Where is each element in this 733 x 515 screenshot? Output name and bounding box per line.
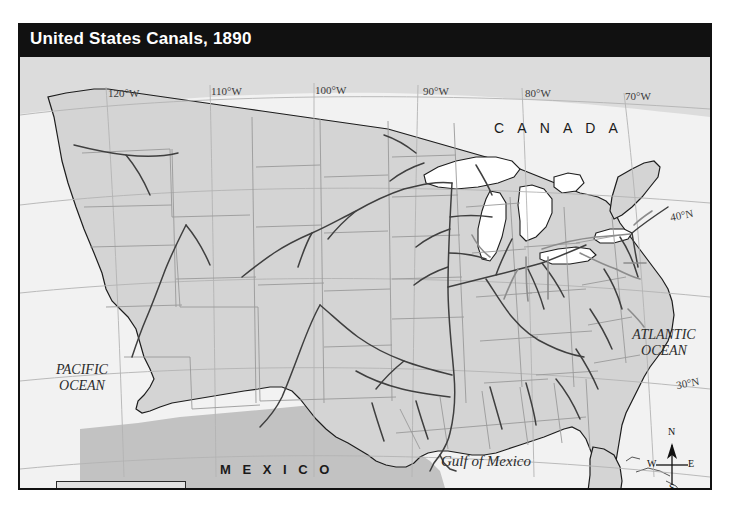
map-legend: Navigable rivers Canals	[56, 481, 186, 490]
ocean-label-atlantic: ATLANTIC OCEAN	[615, 327, 712, 358]
pacific-line-1: PACIFIC	[40, 362, 124, 378]
map-title-bar: United States Canals, 1890	[18, 23, 712, 55]
atlantic-line-2: OCEAN	[615, 343, 712, 359]
compass-west: W	[647, 458, 656, 469]
country-label-mexico: M E X I C O	[220, 462, 333, 477]
compass-rose: N E S W	[648, 435, 696, 490]
country-label-canada: C A N A D A	[494, 120, 623, 136]
pacific-line-2: OCEAN	[40, 378, 124, 394]
page-title: United States Canals, 1890	[30, 29, 252, 49]
lon-label-120w: 120°W	[108, 87, 139, 99]
water-label-gulf-of-mexico: Gulf of Mexico	[441, 453, 531, 470]
atlantic-line-1: ATLANTIC	[615, 327, 712, 343]
compass-south: S	[669, 482, 675, 490]
lon-label-100w: 100°W	[315, 84, 346, 96]
lon-label-90w: 90°W	[423, 85, 449, 97]
lon-label-70w: 70°W	[625, 90, 651, 102]
ocean-label-pacific: PACIFIC OCEAN	[40, 362, 124, 393]
map-figure: United States Canals, 1890	[18, 23, 712, 490]
map-canvas: 120°W 110°W 100°W 90°W 80°W 70°W 40°N 30…	[18, 55, 712, 490]
compass-east: E	[688, 458, 694, 469]
lon-label-110w: 110°W	[211, 85, 242, 97]
lon-label-80w: 80°W	[525, 87, 551, 99]
compass-north: N	[668, 426, 675, 437]
